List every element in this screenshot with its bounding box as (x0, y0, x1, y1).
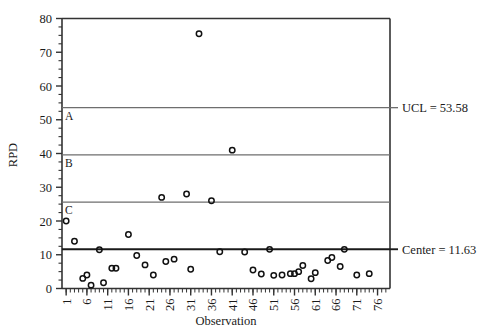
data-point (250, 267, 255, 272)
data-point (101, 280, 106, 285)
data-point (84, 272, 89, 277)
x-axis: 161116212631364146515661667176 (60, 289, 386, 312)
zone-labels: ABC (65, 110, 74, 216)
data-point (151, 272, 156, 277)
x-tick-label: 76 (371, 299, 385, 312)
data-point (354, 272, 359, 277)
y-tick-label: 0 (46, 282, 52, 296)
x-tick-label: 26 (163, 299, 177, 312)
data-point (184, 191, 189, 196)
data-point (259, 271, 264, 276)
y-tick-label: 30 (40, 181, 53, 195)
reference-annotations: UCL = 53.58Center = 11.63 (390, 101, 476, 257)
data-point (230, 147, 235, 152)
data-point (300, 263, 305, 268)
x-tick-label: 6 (80, 299, 94, 305)
y-tick-label: 20 (40, 215, 53, 229)
x-tick-label: 66 (329, 299, 343, 312)
y-tick-label: 40 (40, 147, 53, 161)
data-point (134, 253, 139, 258)
x-tick-label: 36 (205, 299, 219, 312)
x-tick-label: 21 (143, 299, 157, 312)
x-axis-title: Observation (195, 314, 257, 328)
x-tick-label: 46 (246, 299, 260, 312)
data-point (63, 218, 68, 223)
control-chart: 01020304050607080 1611162126313641465156… (0, 0, 488, 334)
x-tick-label: 56 (288, 299, 302, 312)
x-tick-label: 51 (267, 299, 281, 312)
x-tick-label: 61 (309, 299, 323, 312)
zone-label-zone-b: B (65, 157, 73, 169)
x-tick-label: 71 (350, 299, 364, 312)
data-point (279, 272, 284, 277)
y-axis: 01020304050607080 (40, 12, 63, 296)
data-point (88, 282, 93, 287)
data-point (159, 195, 164, 200)
data-point (171, 256, 176, 261)
y-tick-label: 50 (40, 113, 53, 127)
control-chart-svg: 01020304050607080 1611162126313641465156… (0, 0, 488, 334)
data-point (163, 259, 168, 264)
y-axis-title: RPD (6, 143, 20, 167)
data-point (142, 262, 147, 267)
data-point (188, 267, 193, 272)
ucl-annotation: UCL = 53.58 (402, 101, 468, 115)
x-tick-label: 11 (101, 299, 115, 311)
y-tick-label: 70 (40, 46, 53, 60)
zone-label-zone-a: A (65, 110, 74, 122)
x-tick-label: 1 (60, 299, 74, 305)
data-point (337, 264, 342, 269)
center-annotation: Center = 11.63 (402, 243, 476, 257)
x-tick-label: 31 (184, 299, 198, 312)
data-point (313, 270, 318, 275)
x-tick-label: 16 (122, 299, 136, 312)
y-tick-label: 10 (40, 248, 53, 262)
y-tick-label: 60 (40, 80, 53, 94)
data-point (308, 276, 313, 281)
data-point (367, 271, 372, 276)
data-point (126, 232, 131, 237)
y-tick-label: 80 (40, 12, 53, 26)
reference-lines (62, 108, 390, 250)
data-point (329, 255, 334, 260)
data-point (271, 273, 276, 278)
data-point (196, 31, 201, 36)
zone-label-zone-c: C (65, 204, 73, 216)
data-point (72, 239, 77, 244)
plot-frame (62, 19, 390, 289)
x-tick-label: 41 (226, 299, 240, 312)
